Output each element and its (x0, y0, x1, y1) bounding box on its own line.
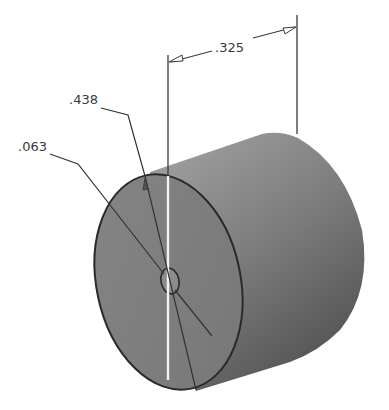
arrowhead-right-icon (283, 27, 296, 34)
arrowhead-left-icon (169, 55, 183, 62)
outer-diameter-label: .438 (69, 92, 98, 107)
hole-diameter-label: .063 (18, 139, 47, 154)
length-dimension: .325 (169, 27, 296, 62)
cylinder-drawing: .325 .438 .063 (0, 0, 389, 410)
length-label: .325 (215, 40, 244, 55)
